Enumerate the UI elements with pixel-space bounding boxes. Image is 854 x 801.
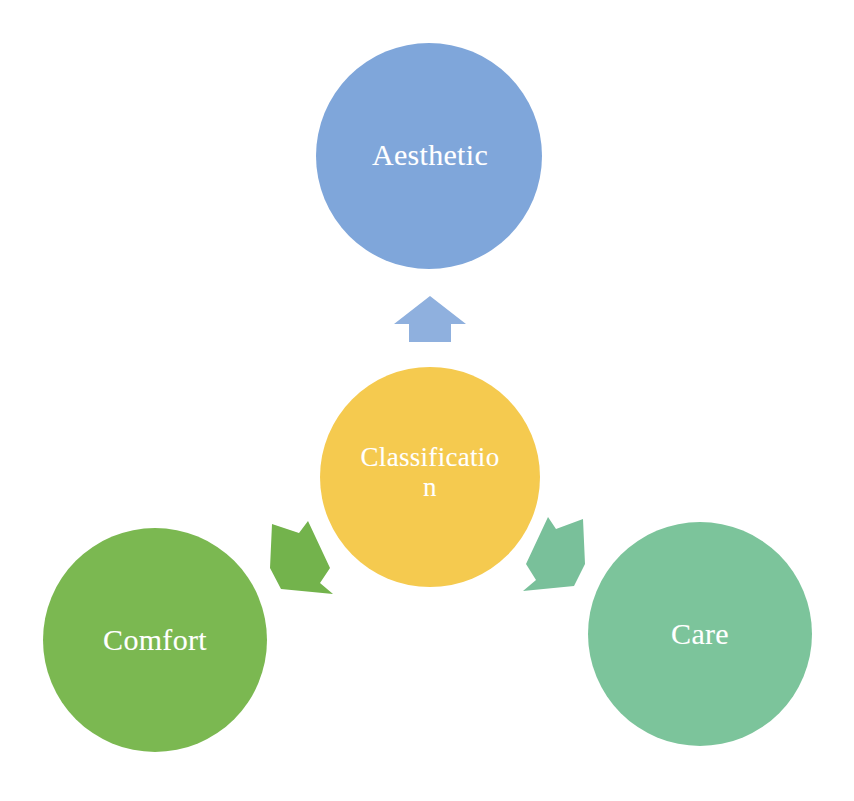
diagram-canvas: Aesthetic Classificatio n Comfort Care [0, 0, 854, 801]
node-circle-comfort[interactable] [43, 528, 267, 752]
arrow-down-left-icon [270, 521, 333, 594]
node-circle-care[interactable] [588, 522, 812, 746]
arrow-up-icon [394, 296, 466, 342]
diagram-graphics [0, 0, 854, 801]
arrow-down-right-icon [523, 517, 585, 591]
node-circle-classification[interactable] [320, 367, 540, 587]
node-circle-aesthetic[interactable] [316, 43, 542, 269]
